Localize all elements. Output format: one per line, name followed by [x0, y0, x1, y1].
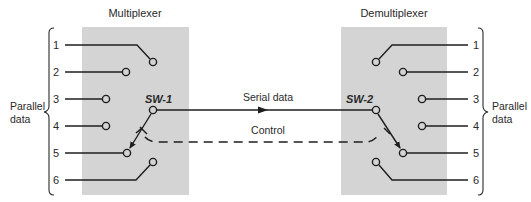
right-parallel-label-line1: Parallel	[492, 100, 527, 112]
right-parallel-label-line2: data	[492, 113, 513, 125]
demultiplexer-output-labels: 1 2 3 4 5 6	[473, 39, 479, 186]
input-label-1: 1	[53, 39, 59, 51]
multiplexer-title: Multiplexer	[108, 7, 162, 19]
input-label-2: 2	[53, 66, 59, 78]
demux-pivot-terminal	[372, 106, 379, 113]
right-brace	[478, 28, 488, 195]
serial-data-label: Serial data	[243, 91, 293, 103]
left-parallel-label-line2: data	[10, 113, 31, 125]
input-label-5: 5	[53, 147, 59, 159]
demultiplexer-title: Demultiplexer	[360, 7, 428, 19]
demux-terminal-2	[399, 68, 406, 75]
mux-terminal-3	[102, 95, 109, 102]
demux-terminal-6	[372, 158, 379, 165]
mux-terminal-1	[149, 58, 156, 65]
mux-terminal-4	[102, 122, 109, 129]
demux-terminal-1	[372, 58, 379, 65]
output-label-4: 4	[473, 120, 479, 132]
input-label-3: 3	[53, 93, 59, 105]
output-label-1: 1	[473, 39, 479, 51]
demux-terminal-3	[418, 95, 425, 102]
mux-pivot-terminal	[149, 106, 156, 113]
multiplexer-box	[82, 27, 189, 195]
demux-terminal-4	[418, 122, 425, 129]
serial-data-arrow-icon	[258, 107, 268, 114]
sw1-label: SW-1	[145, 93, 172, 105]
output-label-2: 2	[473, 66, 479, 78]
output-label-3: 3	[473, 93, 479, 105]
multiplexer-input-labels: 1 2 3 4 5 6	[53, 39, 59, 186]
mux-terminal-2	[122, 68, 129, 75]
output-label-5: 5	[473, 147, 479, 159]
sw2-label: SW-2	[346, 93, 373, 105]
multiplexer-demultiplexer-diagram: Multiplexer Demultiplexer Parallel data …	[0, 0, 531, 202]
output-label-6: 6	[473, 174, 479, 186]
mux-terminal-6	[149, 158, 156, 165]
left-parallel-label-line1: Parallel	[10, 100, 45, 112]
demultiplexer-box	[341, 27, 447, 195]
mux-terminal-5	[123, 149, 130, 156]
left-brace	[44, 28, 54, 195]
demux-terminal-5	[399, 149, 406, 156]
control-label: Control	[251, 124, 285, 136]
input-label-4: 4	[53, 120, 59, 132]
input-label-6: 6	[53, 174, 59, 186]
